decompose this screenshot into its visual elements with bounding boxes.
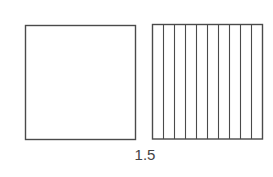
decimal-caption: 1.5 bbox=[0, 146, 273, 163]
whole-square bbox=[26, 26, 136, 140]
tenths-square-group bbox=[153, 25, 263, 140]
